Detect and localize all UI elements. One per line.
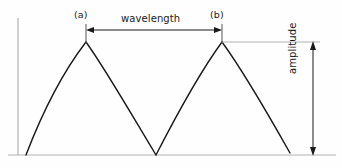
wave-diagram: (a) (b) wavelength amplitude bbox=[0, 0, 342, 168]
wavelength-label: wavelength bbox=[121, 14, 180, 24]
wavelength-arrowhead-right bbox=[214, 27, 222, 33]
amplitude-label: amplitude bbox=[288, 23, 298, 74]
crest-b-label: (b) bbox=[210, 10, 224, 20]
crest-a-label: (a) bbox=[74, 10, 88, 20]
waveform-curve bbox=[26, 42, 290, 155]
wavelength-arrowhead-left bbox=[86, 27, 94, 33]
